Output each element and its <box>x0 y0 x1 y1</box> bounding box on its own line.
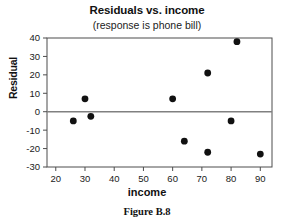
x-axis-label: income <box>0 186 294 198</box>
svg-text:30: 30 <box>80 173 91 184</box>
x-axis-ticks: 2030405060708090 <box>50 167 265 184</box>
svg-text:60: 60 <box>167 173 178 184</box>
svg-text:30: 30 <box>29 51 40 62</box>
svg-text:90: 90 <box>255 173 266 184</box>
svg-text:-20: -20 <box>26 143 40 154</box>
svg-text:50: 50 <box>138 173 149 184</box>
svg-text:-10: -10 <box>26 125 40 136</box>
svg-text:-30: -30 <box>26 161 40 172</box>
svg-text:40: 40 <box>29 32 40 43</box>
svg-text:80: 80 <box>226 173 237 184</box>
svg-text:20: 20 <box>50 173 61 184</box>
svg-text:20: 20 <box>29 69 40 80</box>
svg-text:40: 40 <box>109 173 120 184</box>
data-points <box>70 38 264 157</box>
svg-text:0: 0 <box>35 106 40 117</box>
plot-frame <box>47 38 272 167</box>
svg-text:10: 10 <box>29 88 40 99</box>
figure-caption: Figure B.8 <box>0 206 294 217</box>
figure-container: Residuals vs. income (response is phone … <box>0 0 294 224</box>
y-axis-ticks: -30-20-10010203040 <box>26 32 47 172</box>
svg-text:70: 70 <box>197 173 208 184</box>
